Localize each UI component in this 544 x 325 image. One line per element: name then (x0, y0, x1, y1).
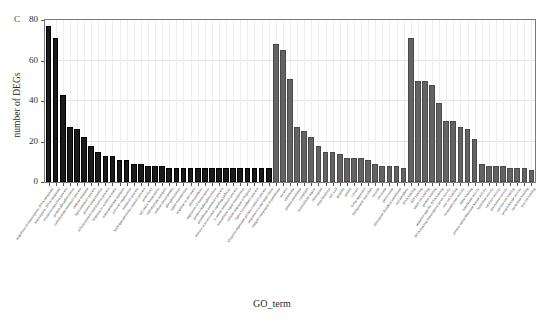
bar (237, 168, 243, 182)
x-tick-mark (176, 183, 177, 186)
bar (394, 166, 400, 182)
x-tick-mark (389, 183, 390, 186)
bar (95, 152, 101, 182)
x-tick-mark (162, 183, 163, 186)
x-tick-mark (63, 183, 64, 186)
bar (436, 103, 442, 182)
bar (67, 127, 73, 182)
x-tick-mark (84, 183, 85, 186)
x-tick-mark (425, 183, 426, 186)
x-tick-mark (148, 183, 149, 186)
bar (259, 168, 265, 182)
bar (60, 95, 66, 182)
bar (486, 166, 492, 182)
bar (74, 129, 80, 182)
x-tick-mark (318, 183, 319, 186)
figure-panel: C number of DEGs 020406080 regulation of… (0, 0, 544, 325)
x-tick-mark (361, 183, 362, 186)
bar (202, 168, 208, 182)
bar (166, 168, 172, 182)
x-tick-mark (91, 183, 92, 186)
bar (372, 164, 378, 182)
x-tick-mark (233, 183, 234, 186)
bar (479, 164, 485, 182)
bar (422, 81, 428, 182)
y-tick-label: 0 (8, 176, 38, 186)
x-tick-mark (368, 183, 369, 186)
bar-series-container (45, 20, 535, 182)
x-tick-mark (404, 183, 405, 186)
bar (344, 158, 350, 182)
x-tick-mark (134, 183, 135, 186)
x-tick-mark (212, 183, 213, 186)
bar (252, 168, 258, 182)
bar (429, 85, 435, 182)
bar (387, 166, 393, 182)
bar (323, 152, 329, 182)
bar (287, 79, 293, 182)
bar (358, 158, 364, 182)
bar (138, 164, 144, 182)
x-tick-mark (475, 183, 476, 186)
y-tick-label: 20 (8, 136, 38, 146)
bar (209, 168, 215, 182)
bar (245, 168, 251, 182)
x-tick-mark (333, 183, 334, 186)
bar (379, 166, 385, 182)
bar (351, 158, 357, 182)
x-tick-mark (240, 183, 241, 186)
bar (514, 168, 520, 182)
bar (337, 154, 343, 182)
x-tick-mark (127, 183, 128, 186)
bar (216, 168, 222, 182)
x-tick-mark (49, 183, 50, 186)
y-tick-label: 40 (8, 95, 38, 105)
x-tick-mark (98, 183, 99, 186)
x-tick-mark (517, 183, 518, 186)
x-tick-mark (269, 183, 270, 186)
x-tick-mark (198, 183, 199, 186)
bar (500, 166, 506, 182)
bar (145, 166, 151, 182)
x-tick-mark (226, 183, 227, 186)
x-tick-mark (503, 183, 504, 186)
x-tick-mark (432, 183, 433, 186)
x-tick-mark (205, 183, 206, 186)
bar (152, 166, 158, 182)
bar (301, 131, 307, 182)
x-tick-mark (468, 183, 469, 186)
bar (88, 146, 94, 182)
bar (46, 26, 52, 182)
x-tick-mark (120, 183, 121, 186)
bar (408, 38, 414, 182)
x-tick-mark (276, 183, 277, 186)
x-tick-mark (531, 183, 532, 186)
bar (103, 156, 109, 182)
x-tick-mark (489, 183, 490, 186)
bar (465, 129, 471, 182)
bar (174, 168, 180, 182)
x-tick-mark (375, 183, 376, 186)
bar (507, 168, 513, 182)
bar (280, 50, 286, 182)
x-tick-mark (247, 183, 248, 186)
bar (493, 166, 499, 182)
bar (81, 137, 87, 182)
bar (181, 168, 187, 182)
bar (330, 152, 336, 182)
x-tick-mark (496, 183, 497, 186)
bar (529, 170, 535, 182)
x-tick-mark (460, 183, 461, 186)
plot-area (44, 19, 536, 183)
x-axis-title: GO_term (0, 298, 544, 309)
x-tick-mark (482, 183, 483, 186)
x-tick-mark (453, 183, 454, 186)
bar (117, 160, 123, 182)
x-tick-mark (70, 183, 71, 186)
x-tick-mark (262, 183, 263, 186)
bar (365, 160, 371, 182)
x-tick-mark (311, 183, 312, 186)
bar (415, 81, 421, 182)
x-tick-mark (169, 183, 170, 186)
bar (230, 168, 236, 182)
